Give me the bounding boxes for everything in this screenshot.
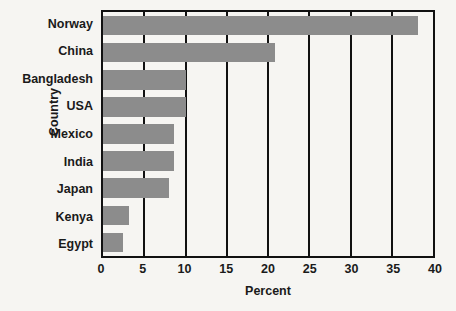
bar-row <box>103 175 433 202</box>
x-axis-tick-labels: 0510152025303540 <box>101 262 435 280</box>
bar <box>103 43 275 63</box>
category-label: Norway <box>16 10 98 38</box>
x-tick-label: 10 <box>178 262 192 276</box>
category-label: Mexico <box>16 120 98 148</box>
bar <box>103 206 129 226</box>
plot-area <box>101 10 435 258</box>
bar-row <box>103 66 433 93</box>
bar-row <box>103 148 433 175</box>
x-tick-label: 15 <box>219 262 233 276</box>
category-label: Egypt <box>16 231 98 259</box>
category-label: China <box>16 38 98 66</box>
bar-row <box>103 12 433 39</box>
bar-row <box>103 39 433 66</box>
bar <box>103 16 418 36</box>
bar <box>103 233 123 253</box>
bar-row <box>103 120 433 147</box>
x-tick-label: 25 <box>303 262 317 276</box>
bar-row <box>103 202 433 229</box>
x-tick-label: 0 <box>98 262 105 276</box>
bar <box>103 124 174 144</box>
category-axis-labels: Norway China Bangladesh USA Mexico India… <box>16 10 98 258</box>
bar-row <box>103 229 433 256</box>
x-axis-title: Percent <box>101 284 435 298</box>
bar <box>103 151 174 171</box>
category-label: USA <box>16 93 98 121</box>
bar-series <box>103 12 433 256</box>
bar-row <box>103 93 433 120</box>
x-tick-label: 40 <box>428 262 442 276</box>
bar <box>103 97 186 117</box>
x-tick-label: 20 <box>261 262 275 276</box>
bar <box>103 70 186 90</box>
bar <box>103 178 169 198</box>
x-tick-label: 35 <box>386 262 400 276</box>
category-label: Kenya <box>16 203 98 231</box>
x-tick-label: 5 <box>139 262 146 276</box>
category-label: Bangladesh <box>16 65 98 93</box>
category-label: Japan <box>16 175 98 203</box>
bar-chart: Country Norway China Bangladesh USA Mexi… <box>0 0 456 311</box>
x-tick-label: 30 <box>345 262 359 276</box>
category-label: India <box>16 148 98 176</box>
